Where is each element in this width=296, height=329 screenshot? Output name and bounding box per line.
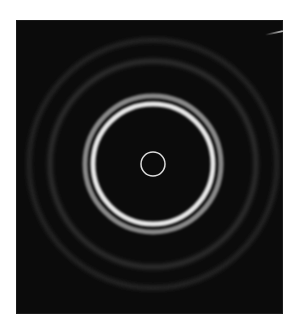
diffraction-pattern-photo: [16, 20, 283, 314]
central-beam-ring: [141, 152, 165, 176]
diffraction-rings: [16, 20, 283, 314]
faint-ring-3: [50, 61, 256, 267]
faint-ring-4: [29, 40, 277, 288]
bright-inner-ring: [93, 104, 213, 224]
second-ring: [85, 96, 221, 232]
